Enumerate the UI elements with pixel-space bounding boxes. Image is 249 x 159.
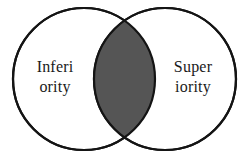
venn-diagram-canvas: Inferi ority Super iority	[0, 0, 249, 159]
label-superiority-line2: iority	[175, 78, 211, 96]
label-inferiority-line1: Inferi	[37, 58, 74, 75]
label-superiority-line1: Super	[174, 58, 213, 76]
label-inferiority-line2: ority	[39, 78, 70, 96]
venn-diagram-svg: Inferi ority Super iority	[0, 0, 249, 159]
